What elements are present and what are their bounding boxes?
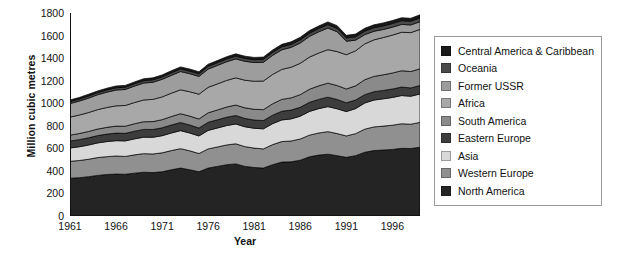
legend-item-western-europe[interactable]: Western Europe <box>441 165 594 183</box>
legend-item-eastern-europe[interactable]: Eastern Europe <box>441 130 594 148</box>
legend-swatch-western-europe <box>441 168 451 178</box>
legend-swatch-oceania <box>441 63 451 73</box>
y-axis-tick-labels: 020040060080010001200140016001800 <box>22 0 64 256</box>
legend-swatch-asia <box>441 151 451 161</box>
plot-area <box>70 13 420 216</box>
legend-item-central-america-caribbean[interactable]: Central America & Caribbean <box>441 42 594 60</box>
legend-swatch-africa <box>441 98 451 108</box>
legend-swatch-central-america-caribbean <box>441 46 451 56</box>
x-tick-1971: 1971 <box>137 220 187 232</box>
legend-swatch-north-america <box>441 186 451 196</box>
y-tick-800: 800 <box>24 121 64 131</box>
legend-swatch-former-ussr <box>441 81 451 91</box>
y-tick-600: 600 <box>24 143 64 153</box>
x-tick-1991: 1991 <box>321 220 371 232</box>
stacked-area-chart: Million cubic metres 0200400600800100012… <box>0 0 628 256</box>
legend-label: South America <box>458 116 526 126</box>
legend-item-africa[interactable]: Africa <box>441 95 594 113</box>
area-series-svg <box>70 13 420 216</box>
x-tick-1966: 1966 <box>91 220 141 232</box>
x-tick-1961: 1961 <box>45 220 95 232</box>
y-tick-1400: 1400 <box>24 53 64 63</box>
legend-label: Western Europe <box>458 168 534 178</box>
legend-label: Oceania <box>458 63 497 73</box>
y-tick-1800: 1800 <box>24 8 64 18</box>
y-tick-400: 400 <box>24 166 64 176</box>
legend-label: North America <box>458 186 525 196</box>
x-tick-1986: 1986 <box>275 220 325 232</box>
legend-item-north-america[interactable]: North America <box>441 182 594 200</box>
legend-item-asia[interactable]: Asia <box>441 147 594 165</box>
y-tick-1600: 1600 <box>24 31 64 41</box>
legend-swatch-eastern-europe <box>441 133 451 143</box>
legend-label: Central America & Caribbean <box>458 46 594 56</box>
legend-item-south-america[interactable]: South America <box>441 112 594 130</box>
y-tick-1000: 1000 <box>24 98 64 108</box>
legend-swatch-south-america <box>441 116 451 126</box>
x-tick-1976: 1976 <box>183 220 233 232</box>
x-axis-title: Year <box>70 235 420 247</box>
x-tick-1996: 1996 <box>367 220 417 232</box>
legend-label: Eastern Europe <box>458 133 531 143</box>
legend-label: Asia <box>458 151 478 161</box>
legend-label: Africa <box>458 98 485 108</box>
legend-item-oceania[interactable]: Oceania <box>441 60 594 78</box>
legend-label: Former USSR <box>458 81 524 91</box>
y-tick-1200: 1200 <box>24 76 64 86</box>
chart-legend: Central America & CaribbeanOceaniaFormer… <box>434 36 602 206</box>
y-tick-200: 200 <box>24 188 64 198</box>
legend-item-former-ussr[interactable]: Former USSR <box>441 77 594 95</box>
x-tick-1981: 1981 <box>229 220 279 232</box>
